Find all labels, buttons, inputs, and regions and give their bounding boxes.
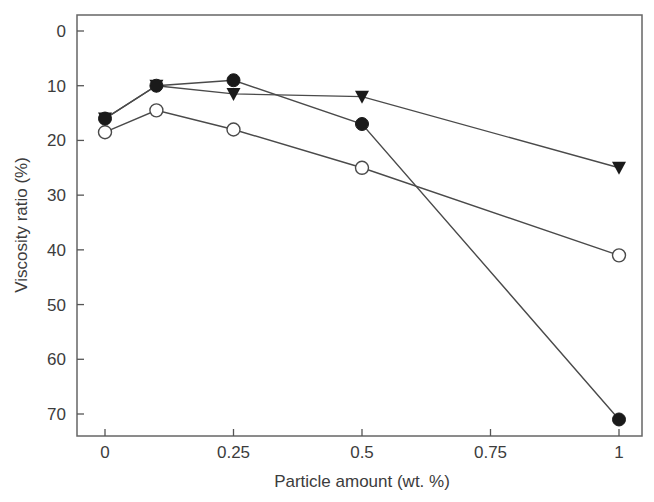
open-circle-marker bbox=[227, 123, 240, 136]
y-tick-label: 60 bbox=[47, 350, 66, 369]
viscosity-chart: 010203040506070 00.250.50.751 Particle a… bbox=[0, 0, 654, 502]
y-axis-ticks: 010203040506070 bbox=[47, 22, 84, 424]
x-tick-label: 0.75 bbox=[474, 443, 507, 462]
series-line-filled-circle bbox=[105, 80, 619, 419]
y-tick-label: 50 bbox=[47, 296, 66, 315]
open-circle-marker bbox=[613, 249, 626, 262]
series-markers bbox=[98, 74, 626, 426]
open-circle-marker bbox=[99, 126, 112, 139]
x-axis-ticks: 00.250.50.751 bbox=[100, 429, 623, 462]
x-tick-label: 0 bbox=[100, 443, 109, 462]
filled-circle-marker bbox=[150, 79, 163, 92]
filled-circle-marker bbox=[613, 413, 626, 426]
y-tick-label: 40 bbox=[47, 241, 66, 260]
y-tick-label: 70 bbox=[47, 405, 66, 424]
x-tick-label: 0.5 bbox=[350, 443, 374, 462]
x-tick-label: 0.25 bbox=[217, 443, 250, 462]
open-circle-marker bbox=[356, 161, 369, 174]
filled-circle-marker bbox=[356, 118, 369, 131]
y-tick-label: 20 bbox=[47, 131, 66, 150]
y-axis-title: Viscosity ratio (%) bbox=[12, 157, 31, 293]
y-tick-label: 0 bbox=[57, 22, 66, 41]
triangle-down-marker bbox=[612, 162, 626, 175]
open-circle-marker bbox=[150, 104, 163, 117]
filled-circle-marker bbox=[99, 112, 112, 125]
series-line-open-circle bbox=[105, 110, 619, 255]
filled-circle-marker bbox=[227, 74, 240, 87]
x-tick-label: 1 bbox=[614, 443, 623, 462]
y-tick-label: 10 bbox=[47, 77, 66, 96]
plot-frame bbox=[77, 15, 642, 436]
series-lines bbox=[105, 80, 619, 419]
x-axis-title: Particle amount (wt. %) bbox=[274, 472, 450, 491]
y-tick-label: 30 bbox=[47, 186, 66, 205]
